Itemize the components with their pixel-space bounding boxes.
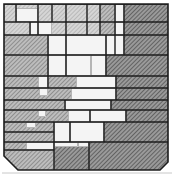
artwork-cell-mid [4,132,54,142]
artwork-cell-white [68,110,90,122]
artwork-cell-mid [48,76,76,88]
artwork-cell-light [4,22,30,35]
artwork-cell-white [38,110,46,117]
artwork-cell-dark [106,55,168,76]
artwork-cell-white [48,35,66,55]
artwork-cell-white [115,22,124,35]
artwork-cell-white [70,122,104,142]
artwork-cell-dark [124,35,168,55]
artwork-cell-white [48,55,66,76]
artwork-cell-white [38,22,52,35]
artwork-cell-dark [124,22,168,35]
artwork-cell-light [66,4,87,35]
artwork-cell-dark [116,76,168,88]
artwork-cell-mid [4,55,48,76]
artwork-cell-dark [54,147,89,170]
hatched-grid-artwork [0,0,174,183]
artwork-cell-mid [4,76,38,88]
artwork-cell-white [16,8,38,22]
artwork-cell-mid [36,122,54,132]
artwork-cell-white [66,55,91,76]
artwork-cell-white [71,88,116,100]
artwork-cell-white [115,4,124,22]
artwork-cell-dark [124,4,168,22]
artwork-cell-dark [104,122,168,142]
artwork-cell-mid [4,150,54,170]
artwork-canvas [0,0,174,183]
artwork-cell-white [26,142,54,150]
artwork-cell-mid [4,100,65,110]
artwork-cell-white [54,122,70,142]
artwork-cell-light [52,4,66,35]
artwork-cell-white [66,35,106,55]
artwork-cells [4,4,168,170]
artwork-cell-white [91,55,106,76]
artwork-cell-white [76,76,116,88]
artwork-cell-dark [126,110,168,122]
artwork-cell-light [87,4,100,35]
artwork-cell-mid [48,88,71,100]
artwork-cell-mid [100,4,115,35]
artwork-cell-light [38,4,52,22]
artwork-cell-mid [4,35,48,55]
artwork-cell-dark [116,88,168,100]
artwork-cell-mid [4,122,26,132]
artwork-cell-dark [89,142,168,170]
artwork-cell-mid [4,110,38,122]
artwork-cell-white [90,110,126,122]
artwork-cell-white [30,22,38,35]
artwork-cell-mid [4,142,26,150]
artwork-cell-mid [46,110,68,122]
artwork-cell-white [38,76,48,88]
artwork-cell-mid [4,88,39,100]
artwork-cell-light [4,4,16,22]
artwork-cell-white [26,122,36,128]
artwork-cell-white [65,100,111,110]
artwork-cell-dark [111,100,168,110]
artwork-cell-white [39,88,48,96]
